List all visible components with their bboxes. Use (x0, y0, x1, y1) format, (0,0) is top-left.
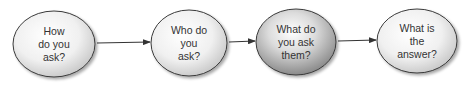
arrow-connector (338, 40, 376, 41)
node-label-line: Who do (171, 24, 207, 36)
arrow-connector (97, 42, 150, 43)
node-label-line: the (410, 35, 425, 47)
flow-node-3: What doyou askthem? (256, 9, 336, 75)
flow-node-1: Howdo youask? (13, 11, 95, 77)
node-label-line: ask? (43, 51, 65, 63)
arrow-connector (229, 41, 255, 42)
node-label-line: do you (38, 38, 70, 50)
node-label-line: How (43, 25, 64, 37)
node-label-line: you ask (278, 36, 315, 48)
node-label-line: What do (276, 23, 315, 35)
question-flow-diagram: Howdo youask?Who doyouask?What doyou ask… (0, 0, 472, 86)
node-label-line: answer? (397, 48, 437, 60)
node-label-line: you (181, 37, 198, 49)
flow-node-4: What istheanswer? (377, 9, 457, 73)
node-label-line: What is (399, 22, 434, 34)
flow-node-2: Who doyouask? (151, 10, 227, 76)
node-label-line: them? (281, 49, 310, 61)
node-label-line: ask? (178, 50, 200, 62)
nodes-layer: Howdo youask?Who doyouask?What doyou ask… (13, 9, 457, 77)
